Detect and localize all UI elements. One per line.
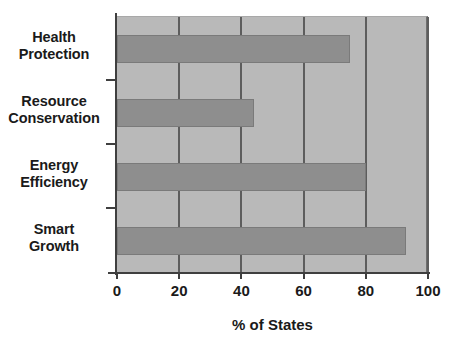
category-label-line: Smart <box>0 221 108 238</box>
x-axis-tick-label: 100 <box>406 282 450 299</box>
category-label: HealthProtection <box>0 29 108 62</box>
x-axis-tick <box>240 272 242 279</box>
x-axis-tick-label: 60 <box>282 282 326 299</box>
category-label-line: Efficiency <box>0 174 108 191</box>
bar <box>117 227 406 255</box>
y-axis-tick <box>106 79 116 81</box>
category-label-line: Growth <box>0 238 108 255</box>
bar-chart-figure: % of States HealthProtectionResourceCons… <box>0 0 467 352</box>
x-axis-tick-label: 20 <box>157 282 201 299</box>
category-label-line: Energy <box>0 157 108 174</box>
plot-area <box>117 16 428 272</box>
y-axis-tick <box>106 143 116 145</box>
gridline <box>427 17 429 272</box>
category-label: EnergyEfficiency <box>0 157 108 190</box>
x-axis-tick-label: 40 <box>219 282 263 299</box>
y-axis-tick <box>106 207 116 209</box>
x-axis-tick-label: 80 <box>344 282 388 299</box>
x-axis-tick-label: 0 <box>95 282 139 299</box>
x-axis-tick <box>427 272 429 279</box>
x-axis-line <box>108 272 430 274</box>
x-axis-tick <box>178 272 180 279</box>
x-axis-tick <box>116 272 118 279</box>
category-label-line: Health <box>0 29 108 46</box>
category-label-line: Protection <box>0 46 108 63</box>
bar <box>117 163 366 191</box>
category-label: ResourceConservation <box>0 93 108 126</box>
category-label-line: Conservation <box>0 110 108 127</box>
bar <box>117 35 350 63</box>
x-axis-tick <box>303 272 305 279</box>
category-label: SmartGrowth <box>0 221 108 254</box>
category-label-line: Resource <box>0 93 108 110</box>
bar <box>117 99 254 127</box>
x-axis-tick <box>365 272 367 279</box>
x-axis-title: % of States <box>117 316 428 333</box>
